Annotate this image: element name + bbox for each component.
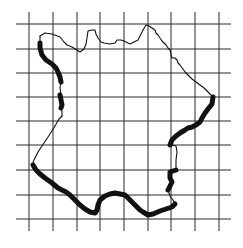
coastline-segment [33, 165, 175, 215]
coastline-segment [60, 95, 62, 108]
map-svg [0, 0, 243, 248]
land-border-south-west [33, 116, 62, 162]
coastline-segment [168, 170, 176, 190]
land-border-north-east [40, 25, 213, 97]
region-outline [33, 25, 213, 215]
map-grid-diagram [0, 0, 243, 248]
